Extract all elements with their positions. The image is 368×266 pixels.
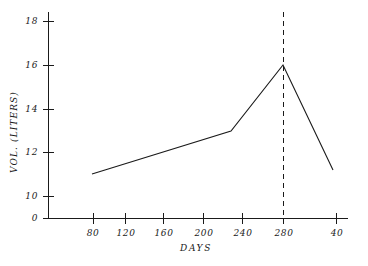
y-tick-label-18: 18 xyxy=(4,17,38,26)
x-tick-label-80: 80 xyxy=(87,229,100,238)
x-tick-label-120: 120 xyxy=(117,229,136,238)
y-tick-label-10: 10 xyxy=(4,192,38,201)
x-tick-label-240: 240 xyxy=(234,229,253,238)
y-axis-title: VOL. (LITERS) xyxy=(10,91,19,173)
x-tick-label-160: 160 xyxy=(155,229,174,238)
y-tick-label-16: 16 xyxy=(4,61,38,70)
data-series-line xyxy=(92,65,333,174)
chart-plot-area xyxy=(0,0,368,266)
y-tick-label-0: 0 xyxy=(4,214,38,223)
x-axis-title: DAYS xyxy=(180,244,212,253)
x-tick-label-280: 280 xyxy=(275,229,294,238)
x-tick-label-200: 200 xyxy=(195,229,214,238)
x-tick-label-40: 40 xyxy=(331,229,344,238)
line-chart: 18 16 14 12 10 0 80 120 160 200 240 280 … xyxy=(0,0,368,266)
